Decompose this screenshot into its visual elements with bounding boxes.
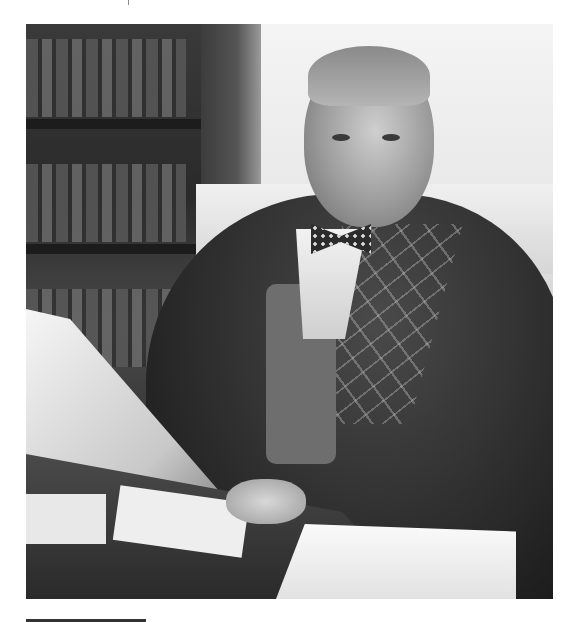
hand bbox=[226, 479, 306, 524]
photo-caption bbox=[172, 614, 572, 622]
desk-paper bbox=[26, 494, 106, 544]
hair bbox=[308, 46, 430, 106]
portrait-photo bbox=[26, 24, 553, 599]
door-frame bbox=[201, 24, 261, 194]
shelf-board bbox=[26, 244, 201, 254]
desk-paper bbox=[276, 524, 516, 599]
left-eye bbox=[332, 134, 350, 141]
book-row bbox=[26, 164, 186, 242]
page-tick-mark bbox=[128, 0, 129, 5]
right-eye bbox=[382, 134, 400, 141]
book-row bbox=[26, 39, 186, 117]
shelf-board bbox=[26, 119, 201, 129]
